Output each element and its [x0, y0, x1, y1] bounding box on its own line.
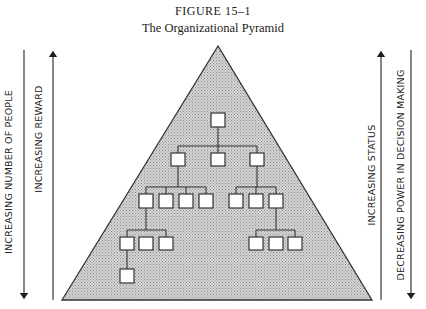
org-box	[249, 194, 263, 208]
org-box	[199, 194, 213, 208]
label-decreasing-power: DECREASING POWER IN DECISION MAKING	[395, 70, 406, 281]
org-box	[120, 269, 134, 283]
label-increasing-status: INCREASING STATUS	[366, 124, 377, 225]
org-box	[229, 194, 243, 208]
org-box	[269, 194, 283, 208]
org-box	[269, 237, 283, 250]
org-box	[159, 194, 173, 208]
org-box	[250, 153, 264, 166]
org-box	[139, 194, 153, 208]
pyramid-shape	[62, 46, 372, 300]
org-box	[179, 194, 193, 208]
label-increasing-people: INCREASING NUMBER OF PEOPLE	[3, 90, 14, 254]
org-box	[171, 153, 185, 166]
label-increasing-reward: INCREASING REWARD	[33, 85, 44, 192]
org-box	[159, 237, 173, 250]
org-box	[288, 237, 302, 250]
org-box	[120, 237, 134, 250]
org-box	[249, 237, 263, 250]
org-box	[211, 113, 225, 127]
org-box	[139, 237, 153, 250]
pyramid-diagram: INCREASING NUMBER OF PEOPLE INCREASING R…	[0, 0, 426, 309]
org-box	[211, 153, 225, 166]
